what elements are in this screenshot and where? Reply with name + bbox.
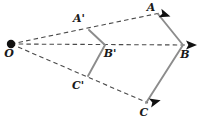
ray-O-A <box>11 13 160 44</box>
label-B-prime: B' <box>103 47 117 60</box>
label-A: A <box>146 1 156 14</box>
label-A-prime: A' <box>72 12 85 25</box>
arrowhead-C-icon <box>149 96 162 108</box>
label-C: C <box>140 106 149 118</box>
ray-O-C <box>11 44 148 103</box>
label-C-prime: C' <box>72 79 84 92</box>
label-B: B <box>179 48 189 61</box>
arrowhead-A-icon <box>159 9 172 21</box>
dilation-figure: O A' B' C' A B C <box>0 0 204 118</box>
label-center-O: O <box>4 47 14 60</box>
preimage-polyline <box>88 30 105 76</box>
image-polyline <box>146 14 183 103</box>
ray-O-B <box>11 44 186 45</box>
figure-canvas: O A' B' C' A B C <box>0 0 204 118</box>
